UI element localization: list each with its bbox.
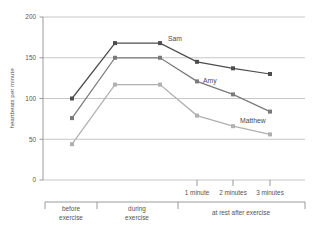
series-sam-point-1: [113, 41, 117, 45]
series-matthew-point-0: [70, 142, 74, 146]
series-matthew-point-5: [268, 132, 272, 136]
series-amy-point-3: [195, 79, 199, 83]
series-amy-point-5: [268, 110, 272, 114]
series-sam-point-3: [195, 60, 199, 64]
series-matthew-point-3: [195, 114, 199, 118]
series-sam-point-4: [231, 66, 235, 70]
x-tick-label-2-minutes: 2 minutes: [219, 189, 247, 196]
y-tick-label-50: 50: [29, 136, 37, 143]
x-group-label-before-line2: exercise: [59, 214, 83, 221]
x-group-label-at-rest: at rest after exercise: [212, 209, 270, 216]
series-amy-point-2: [158, 56, 162, 60]
series-label-amy: Amy: [203, 77, 217, 85]
series-matthew-point-2: [158, 83, 162, 87]
x-axis-group-bracket: [45, 202, 305, 209]
minute-tick-marks: [197, 180, 270, 186]
y-axis-ticks: [40, 17, 44, 180]
series-sam-point-0: [70, 97, 74, 101]
chart-container: 200 150 100 50 0 heartbeats per minute: [0, 0, 315, 234]
series-matthew-point-4: [231, 124, 235, 128]
series-sam-point-5: [268, 72, 272, 76]
x-tick-label-1-minute: 1 minute: [185, 189, 210, 196]
series-label-sam: Sam: [168, 35, 182, 42]
x-group-label-during-line2: exercise: [125, 214, 149, 221]
y-axis-title: heartbeats per minute: [8, 68, 15, 129]
series-label-matthew: Matthew: [240, 117, 266, 124]
series-amy-point-1: [113, 56, 117, 60]
series-amy-point-0: [70, 116, 74, 120]
x-tick-label-3-minutes: 3 minutes: [256, 189, 284, 196]
y-tick-label-150: 150: [25, 54, 36, 61]
series-matthew-point-1: [113, 83, 117, 87]
series-amy-point-4: [231, 92, 235, 96]
series-sam-point-2: [158, 41, 162, 45]
line-chart: 200 150 100 50 0 heartbeats per minute: [0, 0, 315, 234]
y-tick-label-100: 100: [25, 95, 36, 102]
x-group-label-before-line1: before: [62, 205, 81, 212]
y-tick-label-0: 0: [32, 176, 36, 183]
y-tick-label-200: 200: [25, 13, 36, 20]
x-group-label-during-line1: during: [128, 205, 146, 213]
